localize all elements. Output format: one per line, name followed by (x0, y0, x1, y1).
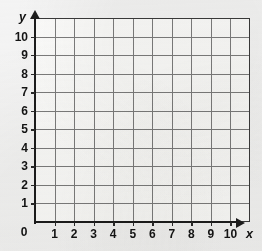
y-axis-tick-mark (31, 129, 35, 130)
y-axis-tick-label: 8 (6, 68, 28, 80)
y-axis-tick-mark (31, 166, 35, 167)
x-axis-tick-mark (152, 222, 153, 226)
y-axis-arrow-icon (30, 10, 40, 19)
y-axis-tick-label: 9 (6, 49, 28, 61)
grid-line-vertical (191, 18, 192, 222)
grid-line-horizontal (35, 185, 250, 186)
x-axis-tick-mark (211, 222, 212, 226)
y-axis-tick-label: 1 (6, 197, 28, 209)
x-axis-tick-mark (133, 222, 134, 226)
x-axis-tick-mark (172, 222, 173, 226)
y-axis-label: y (19, 11, 26, 24)
grid-line-vertical (211, 18, 212, 222)
grid-line-horizontal (35, 166, 250, 167)
y-axis-tick-mark (31, 37, 35, 38)
x-axis-tick-mark (74, 222, 75, 226)
y-axis-tick-mark (31, 148, 35, 149)
grid-line-vertical (74, 18, 75, 222)
x-axis-arrow-icon (236, 218, 245, 228)
grid-line-vertical (230, 18, 231, 222)
y-axis-tick-label: 10 (6, 31, 28, 43)
x-axis-tick-label: 10 (219, 228, 241, 240)
grid-line-vertical (152, 18, 153, 222)
x-axis-tick-mark (191, 222, 192, 226)
x-axis-tick-mark (55, 222, 56, 226)
y-axis-tick-mark (31, 185, 35, 186)
grid-line-vertical (133, 18, 134, 222)
y-axis-tick-mark (31, 203, 35, 204)
grid-line-horizontal (35, 92, 250, 93)
grid-line-vertical (55, 18, 56, 222)
grid-line-horizontal (35, 203, 250, 204)
grid-line-vertical (172, 18, 173, 222)
tick-label-origin: 0 (13, 226, 35, 238)
y-axis-line (34, 18, 36, 224)
x-axis-tick-mark (113, 222, 114, 226)
coordinate-grid-figure: 01234567891012345678910 y x (0, 0, 262, 251)
y-axis-tick-mark (31, 92, 35, 93)
grid-line-horizontal (35, 148, 250, 149)
y-axis-tick-label: 3 (6, 160, 28, 172)
y-axis-tick-mark (31, 74, 35, 75)
y-axis-tick-label: 6 (6, 105, 28, 117)
x-axis-tick-mark (94, 222, 95, 226)
y-axis-tick-label: 2 (6, 179, 28, 191)
grid-line-horizontal (35, 74, 250, 75)
y-axis-tick-label: 5 (6, 123, 28, 135)
y-axis-tick-mark (31, 111, 35, 112)
grid-line-horizontal (35, 111, 250, 112)
grid-line-vertical (94, 18, 95, 222)
grid-line-horizontal (35, 129, 250, 130)
grid-line-horizontal (35, 37, 250, 38)
x-axis-tick-mark (230, 222, 231, 226)
grid-line-vertical (113, 18, 114, 222)
y-axis-tick-label: 4 (6, 142, 28, 154)
y-axis-tick-mark (31, 55, 35, 56)
x-axis-label: x (246, 228, 253, 241)
x-axis-line (34, 221, 240, 223)
grid-line-horizontal (35, 55, 250, 56)
y-axis-tick-label: 7 (6, 86, 28, 98)
grid-background (35, 18, 250, 222)
